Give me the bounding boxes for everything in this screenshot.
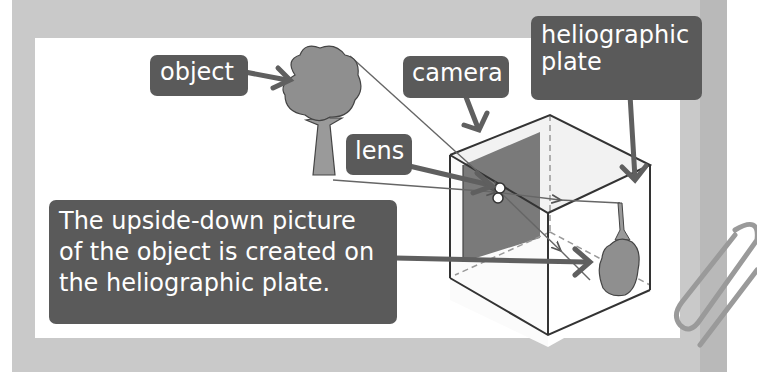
paperclip-icon [676,224,757,345]
label-lens: lens [346,134,412,175]
caption-upside-down-picture: The upside-down picture of the object is… [49,200,397,324]
label-object: object [150,55,248,96]
label-heliographic-plate: heliographic plate [531,16,702,100]
label-camera: camera [403,56,509,98]
